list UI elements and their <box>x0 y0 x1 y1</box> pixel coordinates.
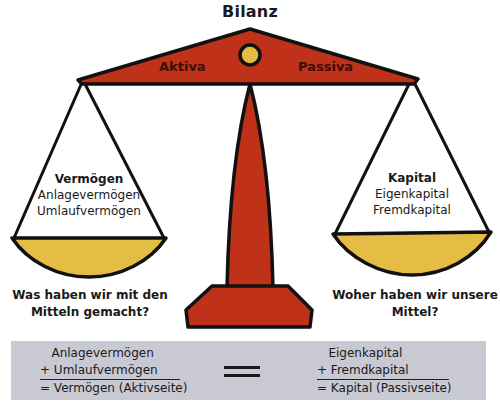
formula-left-result: = Vermögen (Aktivseite) <box>40 380 180 397</box>
right-pan-label: Kapital Eigenkapital Fremdkapital <box>357 170 467 218</box>
right-question-line: Woher haben wir unsere <box>325 287 500 304</box>
left-question-line: Was haben wir mit den <box>0 287 180 304</box>
formula-right: Eigenkapital + Fremdkapital = Kapital (P… <box>317 345 449 397</box>
right-pan-item: Eigenkapital <box>357 186 467 202</box>
right-pan-question: Woher haben wir unsere Mittel? <box>325 287 500 321</box>
left-pan-label: Vermögen Anlagevermögen Umlaufvermögen <box>34 171 144 219</box>
scale-base <box>186 286 312 327</box>
formula-right-line1: Eigenkapital <box>317 345 449 362</box>
right-pan-bowl <box>333 232 491 275</box>
left-pan-heading: Vermögen <box>34 171 144 187</box>
scale-column <box>227 84 273 288</box>
right-pan-heading: Kapital <box>357 170 467 186</box>
beam-label-passiva: Passiva <box>298 59 353 74</box>
left-pan-bowl <box>12 238 166 277</box>
scale-pivot <box>240 45 260 65</box>
formula-right-result: = Kapital (Passivseite) <box>317 380 449 397</box>
formula-left: Anlagevermögen + Umlaufvermögen = Vermög… <box>40 345 180 397</box>
beam-label-aktiva: Aktiva <box>159 59 206 74</box>
left-question-line: Mitteln gemacht? <box>0 304 180 321</box>
formula-left-line1: Anlagevermögen <box>40 345 180 362</box>
diagram-title: Bilanz <box>0 2 500 21</box>
left-pan-item: Umlaufvermögen <box>34 203 144 219</box>
left-pan-question: Was haben wir mit den Mitteln gemacht? <box>0 287 180 321</box>
formula-right-line2: + Fremdkapital <box>317 362 449 379</box>
equals-sign-icon <box>224 366 260 382</box>
left-pan-item: Anlagevermögen <box>34 187 144 203</box>
balance-formula-panel: Anlagevermögen + Umlaufvermögen = Vermög… <box>11 341 486 400</box>
formula-left-line2: + Umlaufvermögen <box>40 362 180 379</box>
right-pan-item: Fremdkapital <box>357 202 467 218</box>
right-question-line: Mittel? <box>325 304 500 321</box>
